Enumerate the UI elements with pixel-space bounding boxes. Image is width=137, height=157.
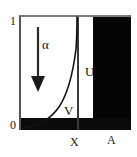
x-axis-caption-x: X: [70, 136, 79, 148]
label-alpha: α: [42, 38, 49, 51]
plot-area: α V U: [19, 15, 131, 130]
y-axis-top-tick-label: 1: [2, 15, 16, 27]
label-region-v: V: [64, 104, 73, 117]
figure-container: 1 0 α V U X A: [0, 0, 137, 157]
x-axis-caption-a: A: [107, 134, 116, 146]
label-region-u: U: [85, 65, 94, 78]
y-axis-bottom-tick-label: 0: [2, 119, 16, 131]
